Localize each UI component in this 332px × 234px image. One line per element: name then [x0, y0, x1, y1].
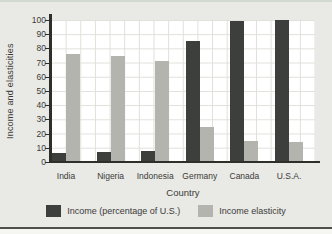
- bar-elasticity: [155, 61, 169, 162]
- y-tick-mark: [45, 119, 49, 120]
- y-tick-mark: [45, 162, 49, 163]
- y-axis-line: [49, 14, 52, 163]
- y-tick-mark: [45, 34, 49, 35]
- y-tick-label: 0: [24, 157, 46, 167]
- bar-elasticity: [66, 54, 80, 162]
- legend-label-income: Income (percentage of U.S.): [67, 206, 180, 216]
- bar-income: [275, 20, 289, 162]
- legend: Income (percentage of U.S.) Income elast…: [0, 205, 332, 217]
- bar-elasticity: [289, 142, 303, 162]
- y-tick-label: 90: [24, 29, 46, 39]
- top-border-rule: [0, 0, 332, 2]
- x-axis-title: Country: [51, 187, 315, 198]
- y-tick-label: 10: [24, 143, 46, 153]
- y-tick-mark: [45, 134, 49, 135]
- y-tick-label: 80: [24, 43, 46, 53]
- plot-area: [51, 20, 315, 162]
- y-tick-mark: [45, 48, 49, 49]
- page-edge-strip: [0, 229, 332, 234]
- bar-income: [186, 41, 200, 162]
- chart-page: { "figure": { "background": "#e9e9e6", "…: [0, 0, 332, 234]
- y-tick-label: 70: [24, 58, 46, 68]
- y-tick-label: 100: [24, 15, 46, 25]
- y-tick-mark: [45, 20, 49, 21]
- y-tick-mark: [45, 63, 49, 64]
- y-tick-label: 40: [24, 100, 46, 110]
- bar-elasticity: [200, 127, 214, 163]
- legend-label-elasticity: Income elasticity: [219, 206, 286, 216]
- bar-elasticity: [111, 56, 125, 163]
- legend-swatch-elasticity: [198, 205, 213, 217]
- bar-elasticity: [244, 141, 258, 162]
- y-tick-mark: [45, 148, 49, 149]
- y-tick-label: 60: [24, 72, 46, 82]
- y-axis-title: Income and elasticities: [3, 20, 16, 162]
- y-tick-mark: [45, 77, 49, 78]
- legend-swatch-income: [46, 205, 61, 217]
- y-tick-mark: [45, 105, 49, 106]
- x-category-label: U.S.A.: [254, 171, 324, 181]
- y-tick-label: 20: [24, 129, 46, 139]
- y-tick-label: 50: [24, 86, 46, 96]
- y-tick-label: 30: [24, 114, 46, 124]
- bar-income: [230, 21, 244, 162]
- y-tick-mark: [45, 91, 49, 92]
- x-axis-line: [49, 161, 320, 164]
